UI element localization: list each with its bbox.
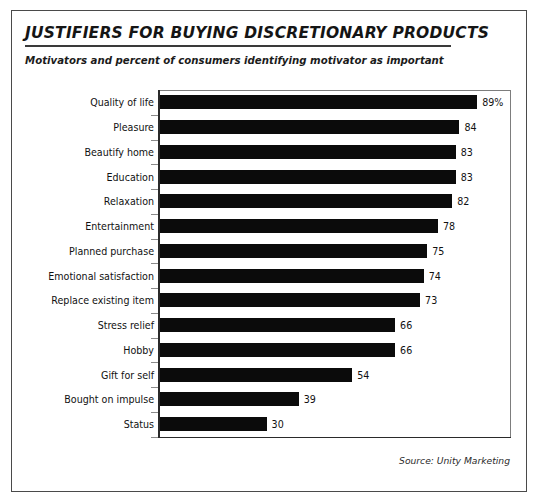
- bar-category-label: Status: [124, 417, 154, 431]
- plot-frame: [158, 90, 511, 438]
- bar-category-label: Pleasure: [113, 120, 154, 134]
- bar-value-label: 54: [357, 368, 369, 382]
- bar: [160, 95, 478, 109]
- bar-category-label: Planned purchase: [69, 244, 154, 258]
- bar-value-label: 83: [461, 170, 473, 184]
- axis-tick: [151, 338, 158, 339]
- chart-figure: JUSTIFIERS FOR BUYING DISCRETIONARY PROD…: [11, 10, 527, 492]
- axis-tick: [151, 387, 158, 388]
- bar: [160, 120, 460, 134]
- bar: [160, 343, 396, 357]
- bar-value-label: 39: [304, 392, 316, 406]
- axis-tick: [151, 140, 158, 141]
- bar-category-label: Beautify home: [84, 145, 154, 159]
- axis-tick: [151, 313, 158, 314]
- bar-category-label: Hobby: [123, 343, 154, 357]
- bar: [160, 219, 438, 233]
- axis-tick: [151, 189, 158, 190]
- bar-category-label: Quality of life: [90, 95, 154, 109]
- axis-tick: [151, 412, 158, 413]
- source-attribution: Source: Unity Marketing: [399, 455, 510, 466]
- bar-category-label: Education: [107, 170, 154, 184]
- bar: [160, 145, 456, 159]
- bar: [160, 194, 453, 208]
- bar: [160, 170, 456, 184]
- bar-category-label: Bought on impulse: [64, 392, 154, 406]
- axis-tick: [151, 437, 158, 438]
- plot-area: Quality of life89%Pleasure84Beautify hom…: [12, 11, 528, 493]
- x-axis-baseline: [158, 437, 511, 439]
- bar-category-label: Emotional satisfaction: [48, 269, 154, 283]
- bar-category-label: Entertainment: [85, 219, 154, 233]
- bar: [160, 244, 428, 258]
- bar: [160, 417, 267, 431]
- axis-tick: [151, 164, 158, 165]
- bar-value-label: 74: [429, 269, 441, 283]
- bar-value-label: 30: [272, 417, 284, 431]
- bar-category-label: Stress relief: [98, 318, 154, 332]
- axis-tick: [151, 214, 158, 215]
- bar: [160, 318, 396, 332]
- bar-value-label: 78: [443, 219, 455, 233]
- bar-value-label: 84: [464, 120, 476, 134]
- bar-category-label: Relaxation: [104, 194, 154, 208]
- axis-tick: [151, 288, 158, 289]
- bar-value-label: 75: [432, 244, 444, 258]
- bar-value-label: 89%: [482, 95, 503, 109]
- axis-tick: [151, 263, 158, 264]
- bar-category-label: Gift for self: [101, 368, 154, 382]
- bar: [160, 293, 421, 307]
- bar-value-label: 83: [461, 145, 473, 159]
- bar: [160, 392, 299, 406]
- bar-value-label: 66: [400, 343, 412, 357]
- bar-category-label: Replace existing item: [51, 293, 154, 307]
- axis-tick: [151, 115, 158, 116]
- bar-value-label: 66: [400, 318, 412, 332]
- axis-tick: [151, 362, 158, 363]
- bar: [160, 368, 353, 382]
- bar-value-label: 73: [425, 293, 437, 307]
- y-axis-line: [158, 90, 160, 438]
- axis-tick: [151, 239, 158, 240]
- bar-value-label: 82: [457, 194, 469, 208]
- bar: [160, 269, 424, 283]
